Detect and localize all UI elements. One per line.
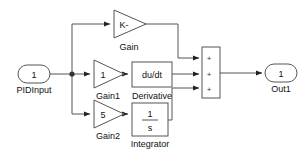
input-port-number: 1	[31, 70, 36, 80]
derivative-block[interactable]: du/dt Derivative	[132, 62, 172, 101]
output-port-number: 1	[278, 69, 283, 79]
gain1-label: Gain1	[96, 91, 120, 101]
gain1-triangle-shape	[94, 60, 124, 88]
sum-sign-3: +	[207, 85, 212, 94]
integrator-denominator: s	[148, 123, 153, 133]
block-diagram-svg: 1 PIDInput K- Gain 1 Gain1 du/dt Derivat…	[0, 0, 302, 151]
block-diagram-canvas: 1 PIDInput K- Gain 1 Gain1 du/dt Derivat…	[0, 0, 302, 151]
output-port-label: Out1	[271, 84, 291, 94]
sum-sign-2: +	[207, 70, 212, 79]
gain-label: Gain	[119, 42, 138, 52]
gain1-block[interactable]: 1 Gain1	[94, 60, 124, 101]
output-port-block[interactable]: 1 Out1	[265, 64, 297, 94]
gain-value: K-	[120, 20, 129, 30]
input-port-label: PIDInput	[16, 85, 52, 95]
sum-block[interactable]: + + +	[202, 47, 220, 98]
signal-junction-dot	[69, 71, 74, 76]
integrator-block[interactable]: 1 s Integrator	[131, 103, 170, 149]
gain2-label: Gain2	[96, 131, 120, 141]
gain2-value: 5	[100, 110, 105, 120]
wire-gain-to-sum	[145, 24, 199, 58]
integrator-numerator: 1	[147, 109, 152, 119]
integrator-label: Integrator	[131, 139, 170, 149]
sum-sign-1: +	[207, 54, 212, 63]
gain2-block[interactable]: 5 Gain2	[94, 100, 124, 141]
wire-integrator-to-sum	[168, 88, 199, 120]
gain2-triangle-shape	[94, 100, 124, 128]
derivative-value: du/dt	[142, 70, 163, 80]
derivative-label: Derivative	[132, 91, 172, 101]
gain-block[interactable]: K- Gain	[114, 10, 146, 52]
input-port-block[interactable]: 1 PIDInput	[16, 65, 52, 95]
gain1-value: 1	[100, 70, 105, 80]
wire-junction-to-gain2	[72, 74, 90, 114]
